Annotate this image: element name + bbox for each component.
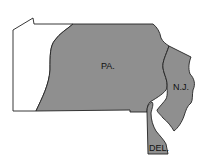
regional-map: PA. N.J. DEL.: [0, 0, 207, 166]
nj-label: N.J.: [173, 82, 189, 92]
pa-label: PA.: [101, 61, 115, 71]
del-label: DEL.: [149, 143, 169, 153]
